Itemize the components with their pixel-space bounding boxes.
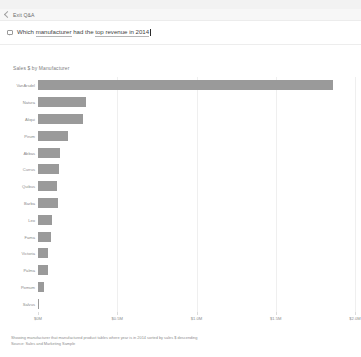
x-axis: $0M$0.5M$1.0M$1.5M$2.0M	[38, 312, 355, 326]
bar-category-label: Fama	[25, 234, 35, 239]
bar[interactable]	[38, 232, 51, 242]
footer-source: Source: Sales and Marketing Sample	[11, 341, 351, 347]
bar[interactable]	[38, 181, 57, 191]
axis-tick-label: $2.0M	[349, 316, 360, 321]
bar-row[interactable]: Salvus	[38, 295, 39, 312]
question-term-manufacturer: manufacturer	[36, 28, 72, 37]
bar-category-label: Quibus	[22, 184, 35, 189]
bar-category-label: Pomum	[21, 284, 35, 289]
bar-row[interactable]: Leo	[38, 211, 52, 228]
bar-row[interactable]: Currus	[38, 161, 59, 178]
question-input[interactable]: Which manufacturer had the top revenue i…	[17, 28, 150, 35]
question-prefix: Which	[17, 28, 36, 35]
bar[interactable]	[38, 265, 48, 275]
bar-category-label: Salvus	[23, 301, 35, 306]
question-middle: had the	[72, 28, 96, 35]
chart-bars: VanArsdelNaturaAliquiPirumAbbasCurrusQui…	[38, 77, 355, 312]
bar[interactable]	[38, 80, 333, 90]
bar-row[interactable]: Aliqui	[38, 111, 83, 128]
text-caret	[150, 29, 151, 36]
chevron-left-icon	[4, 10, 11, 17]
bar[interactable]	[38, 148, 60, 158]
exit-qa-label: Exit Q&A	[13, 12, 34, 18]
axis-tick	[276, 312, 277, 315]
qa-page: Exit Q&A Which manufacturer had the top …	[0, 0, 361, 357]
axis-tick-label: $0M	[34, 316, 42, 321]
speech-bubble-icon	[7, 30, 13, 35]
bar-category-label: Natura	[23, 100, 35, 105]
bar-category-label: Pirum	[24, 133, 35, 138]
bar-category-label: Victoria	[21, 251, 35, 256]
bar-category-label: VanArsdel	[16, 83, 35, 88]
bar-row[interactable]: Palma	[38, 262, 48, 279]
chart-title: Sales $ by Manufacturer	[13, 66, 69, 71]
bar[interactable]	[38, 215, 52, 225]
chart-footer: Showing manufacturer that manufactured p…	[11, 335, 351, 347]
bar[interactable]	[38, 299, 39, 309]
bar[interactable]	[38, 198, 58, 208]
bar-category-label: Barba	[24, 200, 35, 205]
bar-row[interactable]: VanArsdel	[38, 77, 333, 94]
bar-category-label: Leo	[28, 217, 35, 222]
bar-row[interactable]: Victoria	[38, 245, 48, 262]
bar[interactable]	[38, 164, 59, 174]
bar-row[interactable]: Pomum	[38, 279, 44, 296]
bar-row[interactable]: Quibus	[38, 178, 57, 195]
axis-tick-label: $1.5M	[270, 316, 281, 321]
axis-tick	[197, 312, 198, 315]
axis-tick-label: $0.5M	[112, 316, 123, 321]
bar-row[interactable]: Natura	[38, 94, 86, 111]
question-input-row[interactable]: Which manufacturer had the top revenue i…	[0, 21, 361, 43]
axis-tick	[117, 312, 118, 315]
gridline	[355, 77, 356, 312]
bar[interactable]	[38, 248, 48, 258]
bar-row[interactable]: Abbas	[38, 144, 60, 161]
bar[interactable]	[38, 282, 44, 292]
bar-category-label: Palma	[23, 268, 35, 273]
visual-card: Sales $ by Manufacturer VanArsdelNaturaA…	[0, 45, 361, 357]
question-term-revenue: top revenue in 2014	[95, 28, 149, 37]
axis-tick	[355, 312, 356, 315]
bar-chart-plot: VanArsdelNaturaAliquiPirumAbbasCurrusQui…	[14, 77, 355, 312]
bar-row[interactable]: Pirum	[38, 127, 68, 144]
bar[interactable]	[38, 114, 83, 124]
bar[interactable]	[38, 131, 68, 141]
bar-category-label: Aliqui	[25, 116, 35, 121]
exit-qa-bar[interactable]: Exit Q&A	[0, 9, 361, 21]
bar-category-label: Abbas	[23, 150, 35, 155]
bar-category-label: Currus	[23, 167, 35, 172]
window-top-strip	[0, 0, 361, 9]
bar[interactable]	[38, 97, 86, 107]
bar-row[interactable]: Barba	[38, 195, 58, 212]
bar-row[interactable]: Fama	[38, 228, 51, 245]
axis-tick-label: $1.0M	[191, 316, 202, 321]
axis-tick	[38, 312, 39, 315]
